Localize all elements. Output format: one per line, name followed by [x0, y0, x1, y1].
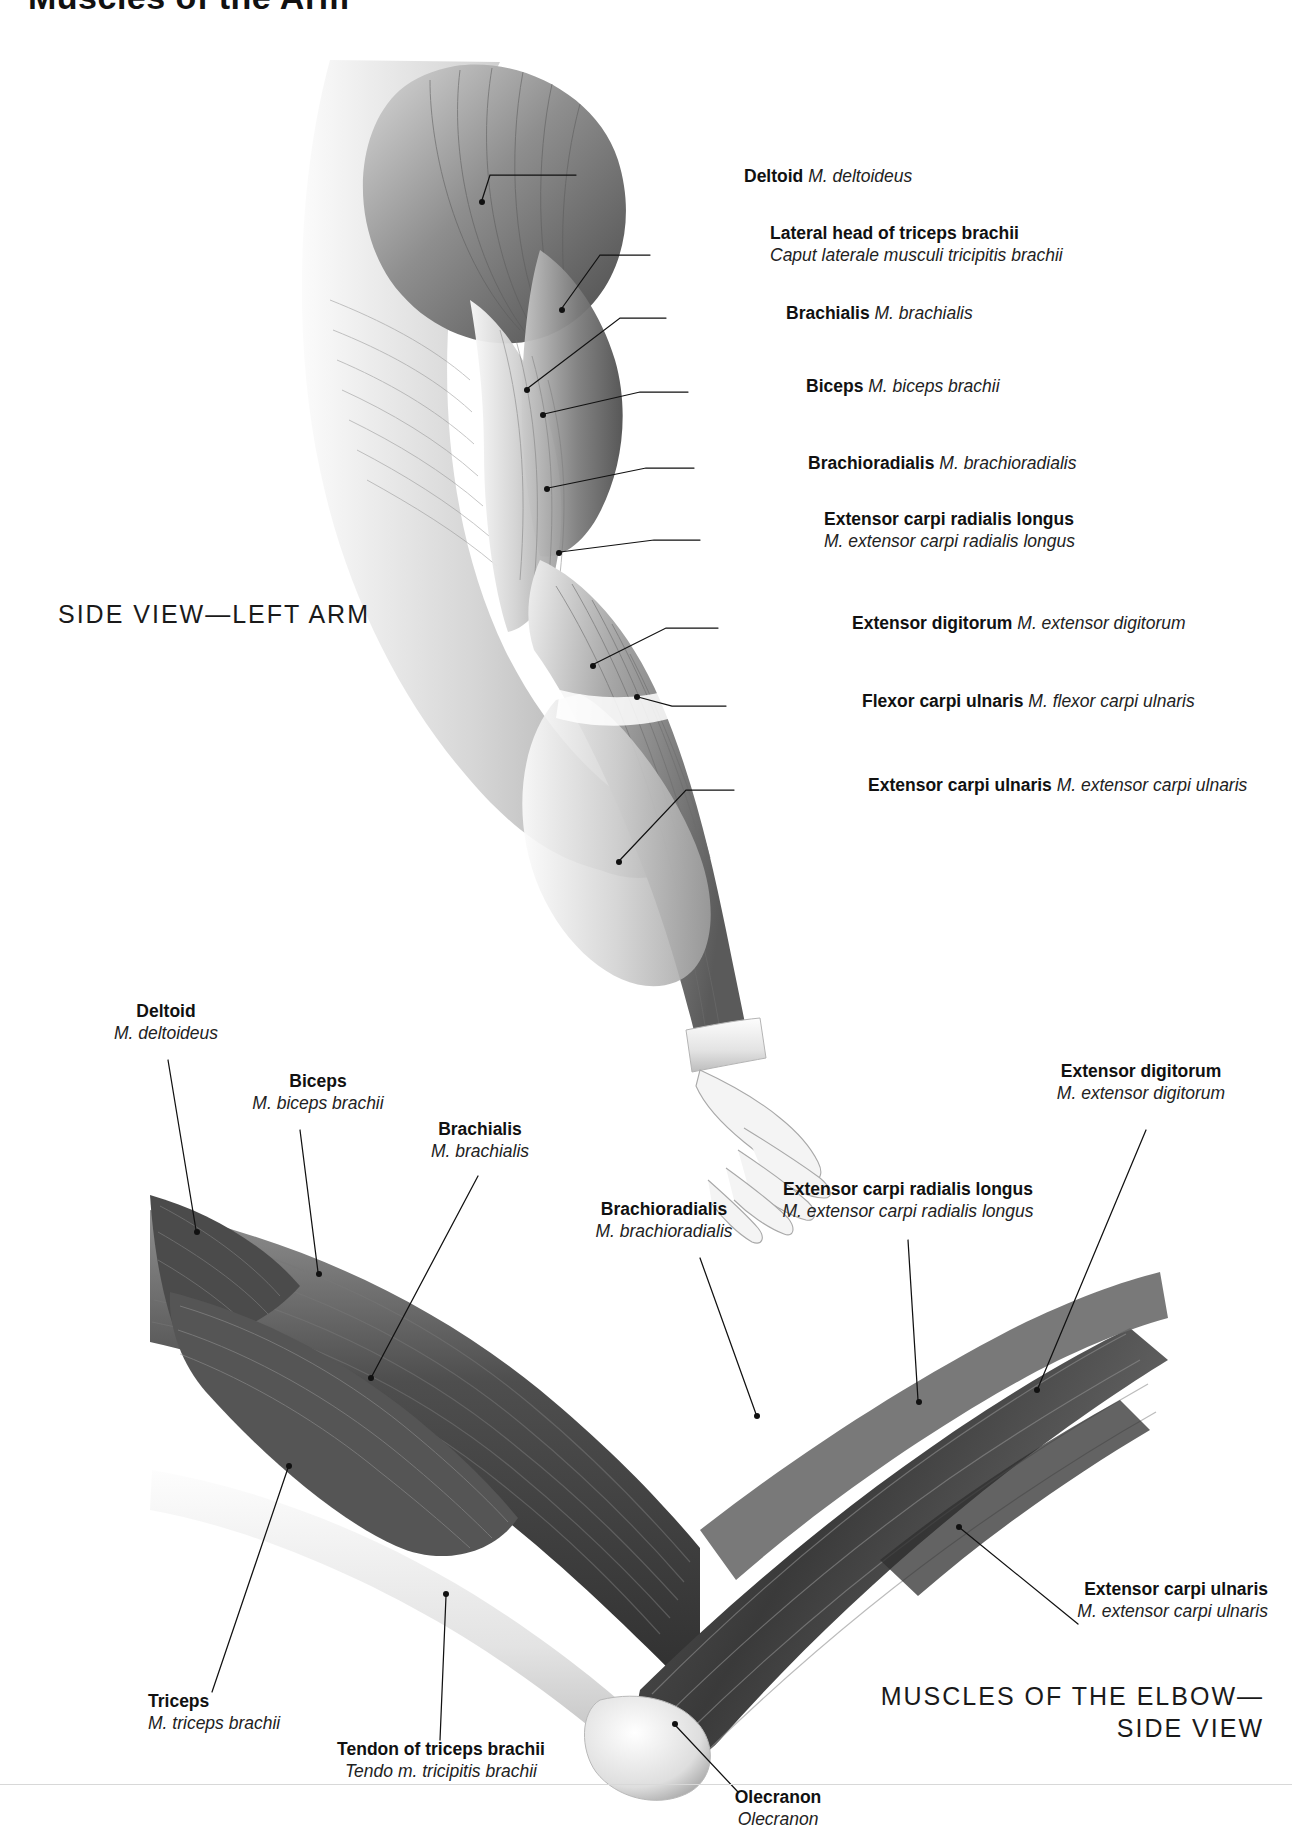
- leader-biceps-lower: [300, 1130, 318, 1272]
- label-brachioradialis-upper-en: Brachioradialis: [808, 453, 934, 473]
- label-extensor-digitorum-upper-la: M. extensor digitorum: [1017, 613, 1185, 633]
- label-ecrl-upper-en: Extensor carpi radialis longus: [824, 508, 1075, 530]
- label-triceps-lower-la: M. triceps brachii: [148, 1712, 280, 1734]
- caption-muscles-of-the-elbow: MUSCLES OF THE ELBOW— SIDE VIEW: [881, 1680, 1264, 1744]
- label-ecrl-lower: Extensor carpi radialis longus M. extens…: [722, 1178, 1094, 1223]
- leader-lines: [0, 0, 1292, 1833]
- label-deltoid-lower-en: Deltoid: [86, 1000, 246, 1022]
- label-tendon-triceps-la: Tendo m. tricipitis brachii: [300, 1760, 582, 1782]
- footer-divider: [0, 1784, 1292, 1785]
- leader-brachioradialis-upper: [548, 468, 694, 488]
- caption-elbow-line2: SIDE VIEW: [1117, 1714, 1264, 1742]
- label-triceps-lower-en: Triceps: [148, 1690, 280, 1712]
- label-ecrl-upper-la: M. extensor carpi radialis longus: [824, 530, 1075, 552]
- label-biceps-lower: Biceps M. biceps brachii: [228, 1070, 408, 1115]
- label-extensor-carpi-ulnaris-upper-la: M. extensor carpi ulnaris: [1057, 775, 1248, 795]
- label-brachialis-upper-la: M. brachialis: [875, 303, 973, 323]
- anatomy-plate: Muscles of the Arm SIDE VIEW—LEFT ARM MU…: [0, 0, 1292, 1833]
- leader-triceps-lower: [212, 1468, 288, 1692]
- leader-ecrl-upper: [560, 540, 700, 552]
- label-lateral-head-triceps-en: Lateral head of triceps brachii: [770, 222, 1063, 244]
- leader-deltoid-upper: [482, 175, 576, 200]
- label-flexor-carpi-ulnaris-upper: Flexor carpi ulnaris M. flexor carpi uln…: [862, 690, 1195, 712]
- label-extensor-carpi-ulnaris-lower: Extensor carpi ulnaris M. extensor carpi…: [960, 1578, 1268, 1623]
- label-olecranon-en: Olecranon: [688, 1786, 868, 1808]
- leader-tendon-triceps-lower: [440, 1596, 446, 1740]
- leader-brachioradialis-lower: [700, 1258, 756, 1414]
- label-extensor-digitorum-upper: Extensor digitorum M. extensor digitorum: [852, 612, 1186, 634]
- label-biceps-upper-en: Biceps: [806, 376, 863, 396]
- label-brachioradialis-lower-la: M. brachioradialis: [554, 1220, 774, 1242]
- leader-brachialis-lower: [372, 1176, 478, 1376]
- leader-olecranon-lower: [676, 1726, 738, 1792]
- label-extensor-carpi-ulnaris-upper-en: Extensor carpi ulnaris: [868, 775, 1052, 795]
- label-deltoid-lower: Deltoid M. deltoideus: [86, 1000, 246, 1045]
- leader-deltoid-lower: [168, 1060, 196, 1230]
- label-ecrl-lower-la: M. extensor carpi radialis longus: [722, 1200, 1094, 1222]
- leader-lateral-head-triceps: [562, 255, 650, 308]
- caption-elbow-line1: MUSCLES OF THE ELBOW—: [881, 1682, 1264, 1710]
- page-title: Muscles of the Arm: [28, 0, 349, 17]
- label-triceps-lower: Triceps M. triceps brachii: [148, 1690, 280, 1735]
- leader-extensor-digitorum-upper: [594, 628, 718, 664]
- anatomy-artwork: [0, 0, 1292, 1833]
- label-deltoid-upper: Deltoid M. deltoideus: [744, 165, 912, 187]
- label-brachialis-lower-la: M. brachialis: [390, 1140, 570, 1162]
- label-brachialis-lower-en: Brachialis: [390, 1118, 570, 1140]
- leader-ecrl-lower: [908, 1240, 918, 1400]
- label-lateral-head-triceps-upper: Lateral head of triceps brachii Caput la…: [770, 222, 1063, 267]
- label-deltoid-lower-la: M. deltoideus: [86, 1022, 246, 1044]
- leader-brachialis-upper: [528, 318, 666, 388]
- label-brachioradialis-upper-la: M. brachioradialis: [939, 453, 1076, 473]
- upper-figure-artwork: [302, 60, 831, 1243]
- label-extensor-carpi-ulnaris-lower-en: Extensor carpi ulnaris: [960, 1578, 1268, 1600]
- label-tendon-triceps-en: Tendon of triceps brachii: [300, 1738, 582, 1760]
- label-extensor-digitorum-lower: Extensor digitorum M. extensor digitorum: [1010, 1060, 1272, 1105]
- label-extensor-carpi-ulnaris-upper: Extensor carpi ulnaris M. extensor carpi…: [868, 774, 1247, 796]
- leader-extensor-digitorum-lower: [1038, 1130, 1146, 1388]
- label-biceps-lower-en: Biceps: [228, 1070, 408, 1092]
- leader-biceps-upper: [544, 392, 688, 414]
- label-brachialis-upper: Brachialis M. brachialis: [786, 302, 973, 324]
- label-flexor-carpi-ulnaris-upper-la: M. flexor carpi ulnaris: [1028, 691, 1194, 711]
- label-biceps-lower-la: M. biceps brachii: [228, 1092, 408, 1114]
- label-brachioradialis-upper: Brachioradialis M. brachioradialis: [808, 452, 1076, 474]
- label-ecrl-upper: Extensor carpi radialis longus M. extens…: [824, 508, 1075, 553]
- label-olecranon-la: Olecranon: [688, 1808, 868, 1830]
- label-deltoid-upper-en: Deltoid: [744, 166, 803, 186]
- label-biceps-upper: Biceps M. biceps brachii: [806, 375, 1000, 397]
- label-ecrl-lower-en: Extensor carpi radialis longus: [722, 1178, 1094, 1200]
- caption-side-view-left-arm: SIDE VIEW—LEFT ARM: [58, 600, 370, 629]
- label-extensor-carpi-ulnaris-lower-la: M. extensor carpi ulnaris: [960, 1600, 1268, 1622]
- leader-flexor-carpi-ulnaris-upper: [638, 697, 726, 706]
- label-flexor-carpi-ulnaris-upper-en: Flexor carpi ulnaris: [862, 691, 1023, 711]
- label-deltoid-upper-la: M. deltoideus: [808, 166, 912, 186]
- leader-extensor-carpi-ulnaris-upper: [620, 790, 734, 860]
- label-biceps-upper-la: M. biceps brachii: [868, 376, 999, 396]
- label-extensor-digitorum-lower-la: M. extensor digitorum: [1010, 1082, 1272, 1104]
- label-extensor-digitorum-upper-en: Extensor digitorum: [852, 613, 1012, 633]
- label-tendon-triceps-lower: Tendon of triceps brachii Tendo m. trici…: [300, 1738, 582, 1783]
- label-olecranon-lower: Olecranon Olecranon: [688, 1786, 868, 1831]
- label-brachialis-upper-en: Brachialis: [786, 303, 870, 323]
- label-brachialis-lower: Brachialis M. brachialis: [390, 1118, 570, 1163]
- label-lateral-head-triceps-la: Caput laterale musculi tricipitis brachi…: [770, 244, 1063, 266]
- label-extensor-digitorum-lower-en: Extensor digitorum: [1010, 1060, 1272, 1082]
